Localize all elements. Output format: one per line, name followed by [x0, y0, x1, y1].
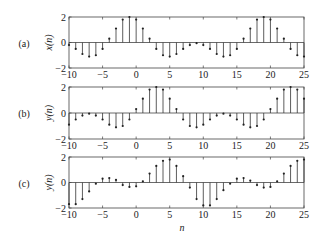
- stem-marker: [95, 183, 97, 185]
- panel-tag: (c): [18, 178, 29, 190]
- stem-marker: [202, 44, 204, 46]
- y-axis-label: y(n): [43, 104, 55, 122]
- y-tick-label: −2: [55, 63, 66, 74]
- x-tick-label: 10: [198, 140, 208, 151]
- stem-marker: [303, 158, 305, 160]
- stem-marker: [289, 86, 291, 88]
- stem-marker: [195, 126, 197, 128]
- stem-marker: [209, 118, 211, 120]
- stem-marker: [222, 55, 224, 57]
- stem-marker: [169, 55, 171, 57]
- stem-marker: [222, 189, 224, 191]
- stem-marker: [242, 38, 244, 40]
- stem-marker: [202, 124, 204, 126]
- stem-marker: [242, 177, 244, 179]
- stem-marker: [148, 172, 150, 174]
- stem-marker: [95, 54, 97, 56]
- stem-marker: [242, 124, 244, 126]
- stem-marker: [155, 165, 157, 167]
- stem-marker: [269, 186, 271, 188]
- stem-marker: [169, 98, 171, 100]
- stem-marker: [276, 180, 278, 182]
- stem-marker: [276, 98, 278, 100]
- stem-marker: [75, 203, 77, 205]
- stem-marker: [101, 118, 103, 120]
- x-tick-label: 10: [198, 69, 208, 80]
- y-tick-label: 0: [61, 108, 66, 119]
- stem-marker: [189, 187, 191, 189]
- stem-marker: [303, 98, 305, 100]
- stem-marker: [249, 126, 251, 128]
- stem-marker: [222, 113, 224, 115]
- stem-marker: [142, 180, 144, 182]
- stem-marker: [283, 38, 285, 40]
- stem-marker: [88, 113, 90, 115]
- x-tick-label: 15: [232, 69, 242, 80]
- stem-marker: [175, 165, 177, 167]
- x-tick-label: 20: [265, 69, 275, 80]
- x-tick-label: 0: [134, 69, 139, 80]
- stem-marker: [148, 38, 150, 40]
- stem-marker: [68, 203, 70, 205]
- y-tick-label: −2: [55, 203, 66, 214]
- stem-marker: [249, 27, 251, 29]
- stem-marker: [128, 118, 130, 120]
- stem-marker: [256, 184, 258, 186]
- panel-c: −10−50510152025−202y(n)(c): [18, 152, 309, 221]
- y-axis-label: y(n): [43, 174, 55, 192]
- x-tick-label: 25: [299, 69, 309, 80]
- y-tick-label: 0: [61, 37, 66, 48]
- stem-marker: [195, 42, 197, 44]
- stem-marker: [296, 160, 298, 162]
- stem-marker: [296, 54, 298, 56]
- y-axis-label: x(n): [43, 34, 55, 52]
- stem-marker: [236, 48, 238, 50]
- stem-marker: [276, 27, 278, 29]
- x-tick-label: 10: [198, 209, 208, 220]
- stem-marker: [162, 160, 164, 162]
- stem-marker: [75, 118, 77, 120]
- stem-marker: [229, 54, 231, 56]
- stem-marker: [209, 204, 211, 206]
- stem-marker: [108, 38, 110, 40]
- stem-marker: [155, 48, 157, 50]
- stem-marker: [81, 115, 83, 117]
- figure-canvas: −10−50510152025−202x(n)(a) −10−505101520…: [0, 0, 318, 245]
- stem-marker: [135, 18, 137, 20]
- stem-marker: [209, 48, 211, 50]
- stem-marker: [108, 177, 110, 179]
- stem-marker: [68, 44, 70, 46]
- stem-marker: [263, 16, 265, 18]
- stem-marker: [216, 53, 218, 55]
- stem-marker: [189, 44, 191, 46]
- panel-tag: (b): [18, 108, 30, 120]
- stem-marker: [256, 18, 258, 20]
- stem-marker: [216, 198, 218, 200]
- y-tick-label: 2: [61, 82, 66, 93]
- stem-marker: [182, 48, 184, 50]
- y-tick-label: 0: [61, 177, 66, 188]
- x-tick-label: 5: [167, 209, 172, 220]
- stem-marker: [148, 89, 150, 91]
- stem-marker: [182, 118, 184, 120]
- stem-marker: [115, 179, 117, 181]
- x-tick-label: 25: [299, 140, 309, 151]
- stem-marker: [115, 27, 117, 29]
- y-tick-label: −2: [55, 134, 66, 145]
- stem-marker: [135, 185, 137, 187]
- x-tick-label: 15: [232, 209, 242, 220]
- x-tick-label: −5: [97, 69, 108, 80]
- stem-marker: [101, 178, 103, 180]
- stem-marker: [95, 115, 97, 117]
- stem-marker: [155, 86, 157, 88]
- stem-marker: [88, 190, 90, 192]
- panel-a: −10−50510152025−202x(n)(a): [18, 12, 309, 81]
- x-tick-label: −5: [97, 140, 108, 151]
- stem-marker: [135, 108, 137, 110]
- stem-marker: [115, 126, 117, 128]
- stem-marker: [169, 158, 171, 160]
- stem-marker: [263, 187, 265, 189]
- stem-marker: [175, 108, 177, 110]
- stem-marker: [142, 27, 144, 29]
- x-tick-label: 25: [299, 209, 309, 220]
